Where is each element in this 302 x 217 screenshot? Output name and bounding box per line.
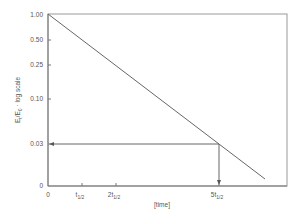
x-tick-label: 0 — [46, 191, 50, 198]
y-tick-label: 0.50 — [30, 36, 43, 43]
y-tick-label: 0.25 — [30, 61, 43, 68]
decay-line — [48, 14, 265, 179]
arrow-left-icon — [49, 142, 54, 146]
x-tick-label: t1/2 — [76, 191, 85, 200]
y-tick-label: 0 — [39, 182, 43, 189]
y-tick-label: 0.03 — [30, 140, 43, 147]
y-tick-label: 1.00 — [30, 11, 43, 18]
x-axis-label: [time] — [154, 201, 170, 209]
plot-frame — [48, 14, 287, 186]
y-tick-label: 0.10 — [30, 95, 43, 102]
arrow-down-icon — [217, 180, 221, 185]
y-axis-label: Et/E0 · log scale — [14, 77, 23, 123]
x-tick-label: 5t1/2 — [211, 191, 224, 200]
x-tick-label: 2t1/2 — [108, 191, 121, 200]
chart: 1.00 0.50 0.25 0.10 0.03 0 0 t1/2 2t1/2 … — [0, 0, 302, 217]
